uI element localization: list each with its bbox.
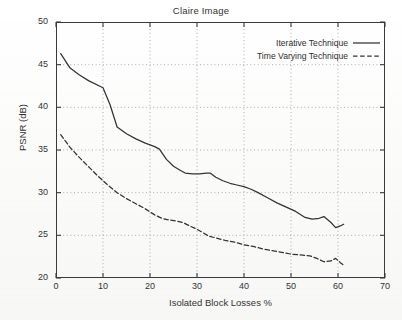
x-tick-label-70: 70 <box>370 282 400 291</box>
chart-legend: Iterative TechniqueTime Varying Techniqu… <box>218 36 380 62</box>
x-tick-label-60: 60 <box>323 282 353 291</box>
x-tick-label-50: 50 <box>276 282 306 291</box>
legend-line-sample-1 <box>353 39 380 47</box>
y-tick-label-25: 25 <box>22 230 48 239</box>
x-tick-label-20: 20 <box>135 282 165 291</box>
x-tick-label-10: 10 <box>88 282 118 291</box>
series-line-2 <box>61 135 344 266</box>
y-tick-label-20: 20 <box>22 273 48 282</box>
y-tick-label-40: 40 <box>22 102 48 111</box>
y-tick-label-35: 35 <box>22 145 48 154</box>
series-line-1 <box>61 54 344 228</box>
legend-entry-2: Time Varying Technique <box>218 49 380 62</box>
legend-label-1: Iterative Technique <box>276 38 348 48</box>
y-tick-label-45: 45 <box>22 60 48 69</box>
legend-line-sample-2 <box>353 52 380 60</box>
chart-figure: Claire Image PSNR (dB) Isolated Block Lo… <box>0 0 402 320</box>
x-tick-label-40: 40 <box>229 282 259 291</box>
x-tick-label-30: 30 <box>182 282 212 291</box>
y-tick-label-50: 50 <box>22 17 48 26</box>
y-tick-label-30: 30 <box>22 188 48 197</box>
legend-label-2: Time Varying Technique <box>257 51 348 61</box>
x-tick-label-0: 0 <box>41 282 71 291</box>
legend-entry-1: Iterative Technique <box>218 36 380 49</box>
